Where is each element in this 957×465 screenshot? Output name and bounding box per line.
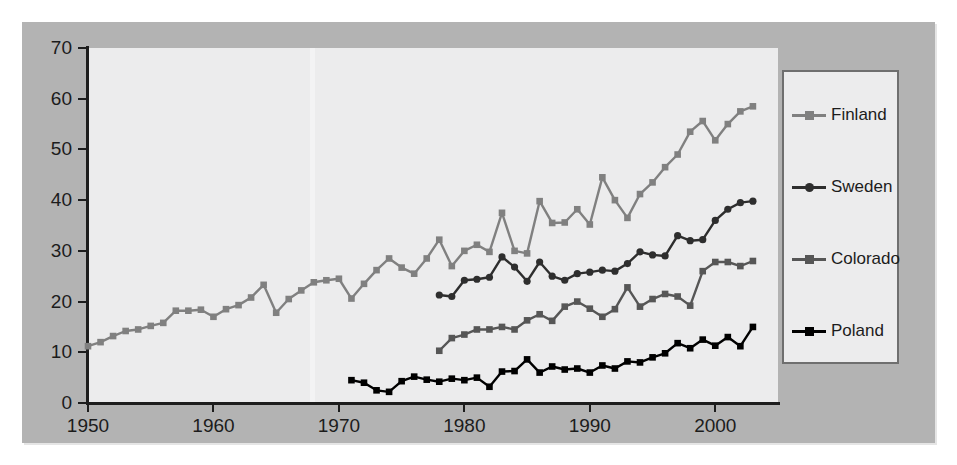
plot-panel bbox=[88, 48, 778, 403]
legend-square-icon bbox=[792, 108, 826, 122]
legend-square-icon bbox=[792, 252, 826, 266]
y-tick-label: 20 bbox=[28, 292, 72, 311]
y-tick bbox=[78, 402, 87, 404]
x-axis-line bbox=[86, 402, 780, 405]
legend-circle-icon bbox=[792, 180, 826, 194]
legend-item-colorado[interactable]: Colorado bbox=[792, 248, 900, 270]
legend-item-label: Finland bbox=[831, 106, 887, 124]
y-tick-label: 0 bbox=[28, 393, 72, 412]
chart-figure: 010203040506070 195019601970198019902000… bbox=[0, 0, 957, 465]
x-tick-label: 2000 bbox=[685, 416, 745, 436]
x-tick-label: 1990 bbox=[560, 416, 620, 436]
y-tick bbox=[78, 148, 87, 150]
x-tick-label: 1950 bbox=[58, 416, 118, 436]
legend-item-label: Poland bbox=[831, 322, 884, 340]
x-tick bbox=[714, 403, 716, 412]
plot-band bbox=[310, 48, 315, 403]
y-tick-label: 30 bbox=[28, 241, 72, 260]
y-tick bbox=[78, 199, 87, 201]
y-tick bbox=[78, 98, 87, 100]
y-tick-label: 60 bbox=[28, 89, 72, 108]
legend-item-finland[interactable]: Finland bbox=[792, 104, 887, 126]
x-tick-label: 1960 bbox=[183, 416, 243, 436]
y-tick-label: 70 bbox=[28, 38, 72, 57]
chart-legend: FinlandSwedenColoradoPoland bbox=[782, 70, 899, 364]
legend-item-label: Colorado bbox=[831, 250, 900, 268]
y-tick-label: 50 bbox=[28, 139, 72, 158]
x-tick bbox=[463, 403, 465, 412]
x-tick bbox=[338, 403, 340, 412]
x-tick-label: 1980 bbox=[434, 416, 494, 436]
legend-item-poland[interactable]: Poland bbox=[792, 320, 884, 342]
x-tick bbox=[87, 403, 89, 412]
y-tick-label: 40 bbox=[28, 190, 72, 209]
legend-item-label: Sweden bbox=[831, 178, 892, 196]
y-tick-label: 10 bbox=[28, 342, 72, 361]
legend-item-sweden[interactable]: Sweden bbox=[792, 176, 892, 198]
legend-square-icon bbox=[792, 324, 826, 338]
y-tick bbox=[78, 47, 87, 49]
x-tick bbox=[212, 403, 214, 412]
x-tick bbox=[589, 403, 591, 412]
x-tick-label: 1970 bbox=[309, 416, 369, 436]
y-tick bbox=[78, 301, 87, 303]
y-tick bbox=[78, 351, 87, 353]
y-tick bbox=[78, 250, 87, 252]
